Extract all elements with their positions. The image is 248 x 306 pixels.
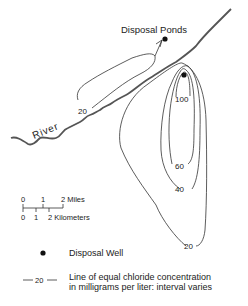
contour-label-100: 100 bbox=[175, 95, 189, 104]
scale-miles-0: 0 bbox=[21, 195, 25, 204]
legend-well-label: Disposal Well bbox=[69, 248, 123, 258]
contour-label-20-south: 20 bbox=[184, 242, 193, 251]
flow-arrow bbox=[155, 40, 162, 56]
legend-well-icon bbox=[40, 250, 45, 255]
contour-label-40: 40 bbox=[175, 185, 184, 194]
scale-km-1: 1 bbox=[34, 213, 38, 222]
contour-60 bbox=[169, 69, 194, 164]
disposal-pond-marker bbox=[162, 36, 167, 41]
contour-label-20-nw: 20 bbox=[78, 107, 87, 116]
scale-km-2: 2 Kilometers bbox=[48, 213, 90, 222]
scale-miles-2: 2 Miles bbox=[61, 195, 85, 204]
legend-contour-description: Line of equal chloride concentration in … bbox=[69, 272, 248, 292]
scale-bar: 0 1 2 Miles 0 1 2 Kilometers bbox=[21, 195, 90, 222]
legend-contour-line2: in milligrams per liter: interval varies bbox=[69, 282, 248, 292]
legend-contour-sample: 20 bbox=[35, 276, 43, 285]
map-canvas: Disposal Ponds River 20 100 60 40 20 0 1… bbox=[0, 0, 248, 306]
legend-contour-line1: Line of equal chloride concentration bbox=[69, 272, 248, 282]
contour-label-60: 60 bbox=[175, 162, 184, 171]
disposal-ponds-label: Disposal Ponds bbox=[121, 24, 187, 35]
scale-km-0: 0 bbox=[21, 213, 25, 222]
scale-miles-1: 1 bbox=[41, 195, 45, 204]
disposal-well-marker bbox=[181, 72, 186, 77]
